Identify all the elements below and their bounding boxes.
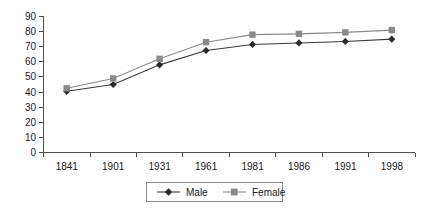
x-tick-label: 1931 <box>149 161 172 172</box>
series-layer <box>63 27 395 95</box>
data-point-square-icon <box>156 56 162 62</box>
legend: Male Female <box>147 183 286 202</box>
data-point-diamond-icon <box>295 39 302 46</box>
x-tick-label: 1991 <box>334 161 357 172</box>
data-point-square-icon <box>342 29 348 35</box>
y-tick-label: 20 <box>25 117 37 128</box>
legend-entry-male[interactable]: Male <box>157 187 208 198</box>
y-tick-label: 0 <box>30 147 36 158</box>
data-point-diamond-icon <box>342 38 349 45</box>
diamond-marker-icon <box>165 188 173 196</box>
data-point-square-icon <box>389 27 395 33</box>
data-point-diamond-icon <box>110 81 117 88</box>
y-tick-marks <box>39 17 44 153</box>
x-tick-label: 1961 <box>195 161 218 172</box>
legend-entry-female[interactable]: Female <box>223 187 286 198</box>
y-tick-label: 50 <box>25 71 37 82</box>
legend-label-male: Male <box>186 187 208 198</box>
square-marker-icon <box>231 189 238 196</box>
data-point-diamond-icon <box>388 36 395 43</box>
data-point-square-icon <box>110 75 116 81</box>
data-point-square-icon <box>249 31 255 37</box>
line-chart: 90 80 70 60 50 40 30 20 10 0 1841 1901 <box>0 0 429 212</box>
y-tick-label: 40 <box>25 87 37 98</box>
x-tick-label: 1841 <box>56 161 79 172</box>
data-point-diamond-icon <box>156 61 163 68</box>
y-tick-label: 80 <box>25 26 37 37</box>
legend-label-female: Female <box>252 187 286 198</box>
x-tick-label: 1986 <box>288 161 311 172</box>
y-tick-label: 60 <box>25 56 37 67</box>
chart-canvas: 90 80 70 60 50 40 30 20 10 0 1841 1901 <box>0 0 429 212</box>
x-tick-labels: 1841 1901 1931 1961 1981 1986 1991 1998 <box>56 161 404 172</box>
data-point-square-icon <box>203 39 209 45</box>
y-tick-label: 30 <box>25 102 37 113</box>
data-point-square-icon <box>296 31 302 37</box>
data-point-diamond-icon <box>202 47 209 54</box>
x-tick-label: 1981 <box>241 161 264 172</box>
x-tick-label: 1901 <box>102 161 125 172</box>
data-point-square-icon <box>64 85 70 91</box>
x-tick-label: 1998 <box>381 161 404 172</box>
y-tick-labels: 90 80 70 60 50 40 30 20 10 0 <box>25 11 37 158</box>
y-tick-label: 70 <box>25 41 37 52</box>
y-tick-label: 10 <box>25 132 37 143</box>
y-tick-label: 90 <box>25 11 37 22</box>
data-point-diamond-icon <box>249 41 256 48</box>
x-tick-marks <box>44 153 416 158</box>
